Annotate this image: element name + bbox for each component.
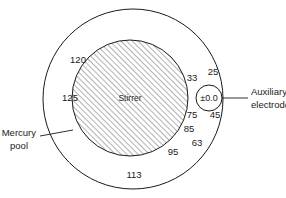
annotation-45: 45 — [210, 109, 221, 120]
annotation-113: 113 — [126, 169, 141, 180]
annotation-120: 120 — [70, 54, 86, 65]
mercury-pool-label-line1: Mercury — [2, 127, 37, 138]
figure-root: 120 125 113 95 63 85 75 45 33 25 ±0.0 St… — [0, 0, 286, 198]
annotation-33: 33 — [187, 72, 198, 83]
annotation-95: 95 — [168, 146, 179, 157]
auxiliary-electrode-label-line2: electrode — [251, 99, 286, 110]
annotation-63: 63 — [192, 137, 203, 148]
mercury-pool-label-line2: pool — [10, 140, 28, 151]
annotation-75: 75 — [187, 109, 198, 120]
annotation-125: 125 — [62, 92, 78, 103]
stirrer-label: Stirrer — [118, 93, 141, 103]
auxiliary-electrode-value: ±0.0 — [200, 93, 217, 103]
mercury-pool-cell-diagram: 120 125 113 95 63 85 75 45 33 25 ±0.0 St… — [0, 0, 286, 198]
annotation-25: 25 — [208, 66, 219, 77]
auxiliary-electrode-label-line1: Auxiliary — [251, 86, 286, 97]
annotation-85: 85 — [184, 123, 195, 134]
